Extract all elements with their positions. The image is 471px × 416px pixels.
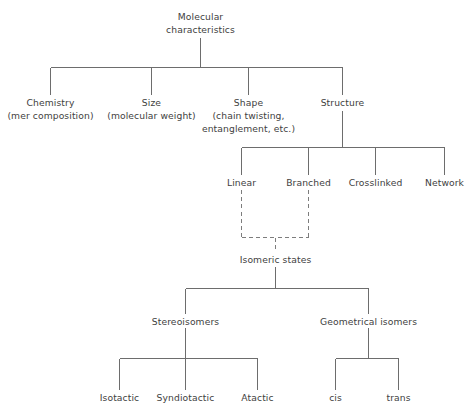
node-linear: Linear xyxy=(227,177,256,188)
node-chemistry-line1: Chemistry xyxy=(27,97,75,108)
node-crosslinked: Crosslinked xyxy=(349,177,403,188)
node-isomeric-states: Isomeric states xyxy=(240,254,312,265)
node-stereoisomers: Stereoisomers xyxy=(152,316,219,327)
node-root-line1: Molecular xyxy=(178,11,224,22)
node-chemistry-line2: (mer composition) xyxy=(7,110,93,121)
node-network: Network xyxy=(425,177,465,188)
node-shape-line1: Shape xyxy=(234,97,264,108)
node-isotactic: Isotactic xyxy=(100,392,140,403)
node-syndiotactic: Syndiotactic xyxy=(157,392,215,403)
node-cis: cis xyxy=(329,392,342,403)
polymer-characteristics-diagram: Molecular characteristics Chemistry (mer… xyxy=(0,0,471,416)
node-size-line1: Size xyxy=(142,97,162,108)
node-shape-line2: (chain twisting, xyxy=(212,110,284,121)
node-root-line2: characteristics xyxy=(166,24,235,35)
node-atactic: Atactic xyxy=(241,392,273,403)
node-size-line2: (molecular weight) xyxy=(107,110,195,121)
node-trans: trans xyxy=(386,392,410,403)
node-geometrical-isomers: Geometrical isomers xyxy=(320,316,417,327)
node-branched: Branched xyxy=(286,177,331,188)
diagram-canvas: Molecular characteristics Chemistry (mer… xyxy=(0,0,471,416)
node-shape-line3: entanglement, etc.) xyxy=(202,123,295,134)
node-structure-line1: Structure xyxy=(321,97,365,108)
